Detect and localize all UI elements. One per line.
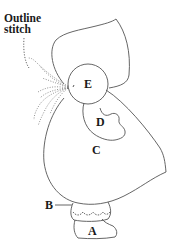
label-b: B [45, 199, 53, 211]
label-e: E [84, 78, 92, 90]
outline-stitch-lines [28, 58, 68, 126]
cuff-scallop [73, 212, 110, 215]
bonnet-back [106, 90, 166, 172]
outline-stitch-callout: Outline stitch [4, 13, 41, 35]
cuff-b [71, 202, 111, 221]
label-c: C [92, 144, 101, 156]
label-d: D [96, 116, 105, 128]
dress-c [44, 98, 166, 204]
pattern-diagram: Outline stitch E D C B A [0, 0, 178, 242]
callout-leader [24, 38, 29, 68]
callout-line-2: stitch [4, 24, 41, 35]
label-a: A [88, 225, 97, 237]
pattern-outline-drawing [0, 0, 178, 242]
